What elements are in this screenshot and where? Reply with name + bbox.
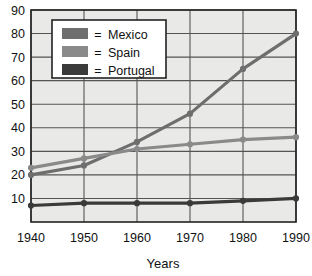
legend-label-portugal: Portugal bbox=[108, 64, 155, 78]
chart-canvas: 102030405060708090 194019501960197019801… bbox=[0, 0, 312, 276]
y-tick-label: 70 bbox=[11, 51, 25, 65]
y-tick-label: 90 bbox=[11, 4, 25, 18]
x-tick-label: 1950 bbox=[70, 231, 98, 245]
data-point bbox=[187, 111, 193, 117]
x-tick-label: 1960 bbox=[123, 231, 151, 245]
y-tick-label: 20 bbox=[11, 168, 25, 182]
data-point bbox=[240, 66, 246, 72]
x-axis-title: Years bbox=[147, 256, 180, 271]
data-point bbox=[293, 30, 299, 36]
y-tick-label: 50 bbox=[11, 98, 25, 112]
legend-swatch bbox=[62, 64, 88, 75]
x-tick-label: 1990 bbox=[282, 231, 310, 245]
line-chart: 102030405060708090 194019501960197019801… bbox=[0, 0, 312, 276]
legend-equals-sign: = bbox=[94, 64, 101, 78]
data-point bbox=[293, 195, 299, 201]
legend-equals-sign: = bbox=[94, 28, 101, 42]
data-point bbox=[81, 200, 87, 206]
data-point bbox=[187, 200, 193, 206]
x-tick-label: 1980 bbox=[229, 231, 257, 245]
data-point bbox=[28, 202, 34, 208]
y-tick-label: 30 bbox=[11, 145, 25, 159]
y-tick-label: 10 bbox=[11, 192, 25, 206]
x-tick-label: 1970 bbox=[176, 231, 204, 245]
data-point bbox=[134, 200, 140, 206]
chart-legend: =Mexico=Spain=Portugal bbox=[52, 20, 166, 78]
y-tick-label: 40 bbox=[11, 121, 25, 135]
data-point bbox=[240, 198, 246, 204]
data-point bbox=[81, 162, 87, 168]
data-point bbox=[187, 141, 193, 147]
legend-label-spain: Spain bbox=[108, 46, 140, 60]
y-tick-label: 80 bbox=[11, 27, 25, 41]
legend-equals-sign: = bbox=[94, 46, 101, 60]
data-point bbox=[134, 139, 140, 145]
data-point bbox=[134, 146, 140, 152]
legend-swatch bbox=[62, 28, 88, 39]
data-point bbox=[240, 136, 246, 142]
legend-label-mexico: Mexico bbox=[108, 28, 148, 42]
data-point bbox=[293, 134, 299, 140]
data-point bbox=[28, 165, 34, 171]
legend-swatch bbox=[62, 46, 88, 57]
data-point bbox=[28, 172, 34, 178]
y-tick-label: 60 bbox=[11, 74, 25, 88]
x-tick-label: 1940 bbox=[17, 231, 45, 245]
data-point bbox=[81, 155, 87, 161]
y-axis-tick-labels: 102030405060708090 bbox=[11, 4, 25, 206]
